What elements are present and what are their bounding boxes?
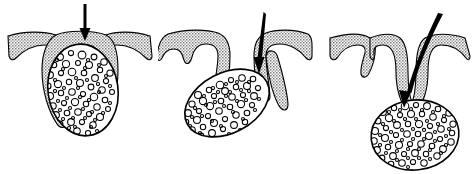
panel-stage-2: [158, 0, 316, 174]
panel-stage-3: [316, 0, 473, 174]
figure-container: Stage 1: mass resting in shallow surface…: [0, 0, 473, 174]
panel-stage-1: [0, 0, 158, 174]
tissue-channel-wall: [266, 51, 288, 110]
tissue-shallow-left-fold: [330, 34, 375, 77]
cellular-mass-stage-3: [368, 96, 463, 174]
